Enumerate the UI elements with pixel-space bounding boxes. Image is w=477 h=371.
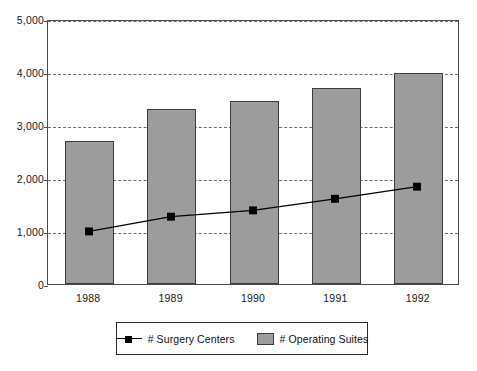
- legend-label-surgery-centers: # Surgery Centers: [148, 333, 235, 345]
- legend-entry-surgery-centers: # Surgery Centers: [116, 333, 235, 345]
- line-marker-key-icon: [116, 334, 142, 344]
- line-marker: [413, 183, 421, 191]
- plot-area: [47, 20, 459, 285]
- line-series-surgery-centers: [48, 21, 458, 284]
- line-marker: [85, 227, 93, 235]
- y-axis-tick-mark: [44, 286, 48, 287]
- y-axis-tick-label: 4,000: [0, 68, 44, 78]
- line-marker: [167, 213, 175, 221]
- gray-swatch-key-icon: [257, 333, 274, 345]
- y-axis-tick-label: 0: [0, 280, 44, 290]
- chart-figure: 01,0002,0003,0004,0005,000 1988198919901…: [0, 0, 477, 371]
- x-axis-tick-label: 1991: [323, 292, 347, 304]
- y-axis-tick-label: 1,000: [0, 227, 44, 237]
- legend-entry-operating-suites: # Operating Suites: [257, 333, 369, 345]
- x-axis-tick-label: 1992: [406, 292, 430, 304]
- line-marker: [249, 206, 257, 214]
- line-series-svg: [48, 21, 458, 284]
- y-axis-tick-label: 5,000: [0, 15, 44, 25]
- x-axis-tick-label: 1989: [159, 292, 183, 304]
- x-axis-tick-label: 1988: [76, 292, 100, 304]
- chart-legend: # Surgery Centers # Operating Suites: [116, 322, 368, 355]
- y-axis-tick-label: 2,000: [0, 174, 44, 184]
- legend-label-operating-suites: # Operating Suites: [280, 333, 369, 345]
- x-axis-tick-label: 1990: [241, 292, 265, 304]
- line-marker: [331, 195, 339, 203]
- y-axis-tick-label: 3,000: [0, 121, 44, 131]
